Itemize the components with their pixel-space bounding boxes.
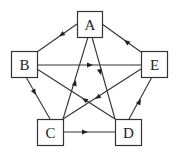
node-c: C: [38, 120, 64, 146]
edge-b-to-c: [26, 77, 50, 119]
edges-layer: [26, 24, 152, 135]
edge-e-to-c: [63, 69, 141, 119]
node-d-label: D: [123, 125, 134, 141]
directed-graph: A B E C D: [0, 0, 176, 154]
node-d: D: [116, 120, 142, 146]
edge-d-to-e: [129, 77, 152, 119]
node-b-label: B: [19, 57, 29, 73]
node-a: A: [78, 12, 103, 38]
arrowhead-icon: [81, 96, 89, 103]
nodes-layer: A B E C D: [12, 12, 168, 146]
edge-b-to-e: [37, 63, 141, 68]
arrowhead-icon: [87, 63, 93, 68]
arrowhead-icon: [82, 130, 88, 135]
edge-e-to-a: [102, 24, 141, 52]
edge-c-to-d: [63, 130, 115, 135]
arrowhead-icon: [31, 89, 38, 97]
node-e-label: E: [150, 57, 159, 73]
node-b: B: [12, 52, 38, 78]
node-e: E: [142, 52, 168, 78]
node-c-label: C: [45, 125, 55, 141]
edge-a-to-b: [37, 24, 77, 52]
edge-c-to-a: [63, 37, 88, 119]
node-a-label: A: [85, 17, 96, 33]
